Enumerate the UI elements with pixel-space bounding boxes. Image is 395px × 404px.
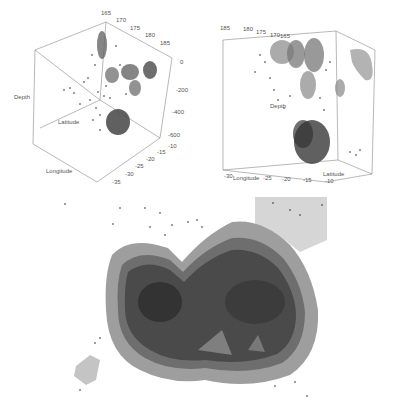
svg-text:-30: -30	[125, 171, 134, 177]
panel-density-zoom	[0, 190, 395, 404]
svg-text:-15: -15	[157, 149, 166, 155]
svg-text:165: 165	[280, 33, 291, 39]
longitude-axis-label: Longitude	[233, 175, 260, 181]
svg-text:-400: -400	[172, 109, 185, 115]
density-blobs	[97, 31, 157, 135]
svg-text:-200: -200	[176, 87, 189, 93]
svg-text:-20: -20	[146, 156, 155, 162]
density-core-right	[225, 280, 285, 324]
panel-3d-view-b: 185 180 175 170 165 -30 -25 -20 -15 -10 …	[200, 0, 395, 195]
svg-text:185: 185	[220, 25, 231, 31]
density-core-left	[138, 282, 182, 322]
panel-3d-view-a: 165 170 175 180 185 0 -200 -400 -600 -10…	[0, 0, 200, 195]
longitude-axis-label: Longitude	[46, 168, 73, 174]
svg-text:170: 170	[116, 17, 127, 23]
svg-text:165: 165	[101, 10, 112, 16]
svg-text:180: 180	[243, 26, 254, 32]
depth-axis-label: Depth	[14, 94, 30, 100]
svg-text:-10: -10	[325, 178, 334, 184]
svg-text:-25: -25	[135, 163, 144, 169]
density-blobs	[270, 38, 373, 164]
depth-axis-label: Depth	[270, 103, 286, 109]
svg-text:-30: -30	[224, 173, 233, 179]
latitude-axis-label: Latitude	[323, 171, 345, 177]
svg-text:0: 0	[180, 59, 184, 65]
latitude-axis-label: Latitude	[58, 119, 80, 125]
plot-density-surface	[0, 190, 395, 404]
svg-text:-20: -20	[282, 176, 291, 182]
svg-text:-15: -15	[303, 177, 312, 183]
plot-3d-a: 165 170 175 180 185 0 -200 -400 -600 -10…	[0, 0, 200, 195]
small-density-blob	[74, 355, 100, 385]
svg-text:-10: -10	[168, 143, 177, 149]
svg-text:-600: -600	[168, 132, 181, 138]
svg-text:185: 185	[160, 40, 171, 46]
svg-text:-25: -25	[263, 175, 272, 181]
axis-ticks: 165 170 175 180 185 0 -200 -400 -600 -10…	[101, 10, 189, 185]
svg-text:-35: -35	[112, 179, 121, 185]
svg-text:175: 175	[130, 25, 141, 31]
plot-3d-b: 185 180 175 170 165 -30 -25 -20 -15 -10 …	[200, 0, 395, 195]
svg-text:175: 175	[256, 29, 267, 35]
svg-text:180: 180	[145, 32, 156, 38]
